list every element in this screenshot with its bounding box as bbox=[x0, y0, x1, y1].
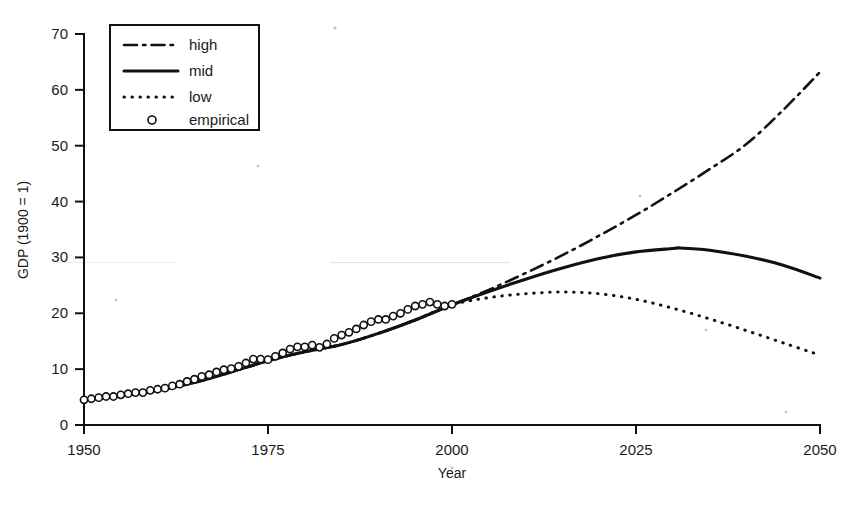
empirical-data-point bbox=[213, 368, 220, 375]
empirical-data-point bbox=[117, 391, 124, 398]
empirical-data-point bbox=[279, 349, 286, 356]
chart-canvas: 010203040506070 GDP (1900 = 1) 195019752… bbox=[0, 0, 847, 507]
legend-label-high: high bbox=[189, 36, 217, 53]
x-tick-label: 1950 bbox=[67, 441, 100, 458]
empirical-data-point bbox=[257, 355, 264, 362]
empirical-data-point bbox=[426, 299, 433, 306]
empirical-data-point bbox=[125, 390, 132, 397]
empirical-data-point bbox=[316, 344, 323, 351]
empirical-data-point bbox=[110, 393, 117, 400]
legend-swatch-empirical-circle-icon bbox=[148, 116, 156, 124]
empirical-data-point bbox=[382, 316, 389, 323]
empirical-data-point bbox=[323, 340, 330, 347]
empirical-data-point bbox=[294, 343, 301, 350]
y-tick-label: 70 bbox=[51, 25, 68, 42]
y-tick-label: 20 bbox=[51, 304, 68, 321]
empirical-data-point bbox=[397, 310, 404, 317]
empirical-data-point bbox=[360, 321, 367, 328]
legend-label-mid: mid bbox=[189, 62, 213, 79]
empirical-data-point bbox=[301, 343, 308, 350]
empirical-data-point bbox=[448, 301, 455, 308]
empirical-data-point bbox=[331, 335, 338, 342]
empirical-data-point bbox=[88, 395, 95, 402]
empirical-data-point bbox=[286, 345, 293, 352]
series-markers-empirical bbox=[80, 299, 455, 404]
empirical-data-point bbox=[169, 382, 176, 389]
y-axis-tick-labels: 010203040506070 bbox=[51, 25, 68, 433]
empirical-data-point bbox=[161, 385, 168, 392]
x-axis: 19501975200020252050 Year bbox=[67, 425, 836, 481]
x-tick-label: 2000 bbox=[435, 441, 468, 458]
empirical-data-point bbox=[191, 376, 198, 383]
empirical-data-point bbox=[206, 371, 213, 378]
x-axis-title: Year bbox=[438, 465, 467, 481]
empirical-data-point bbox=[367, 318, 374, 325]
x-tick-label: 2025 bbox=[619, 441, 652, 458]
empirical-data-point bbox=[176, 381, 183, 388]
empirical-data-point bbox=[441, 302, 448, 309]
empirical-data-point bbox=[242, 359, 249, 366]
x-axis-tick-labels: 19501975200020252050 bbox=[67, 441, 836, 458]
y-tick-label: 60 bbox=[51, 81, 68, 98]
empirical-data-point bbox=[412, 302, 419, 309]
y-tick-label: 50 bbox=[51, 137, 68, 154]
empirical-data-point bbox=[139, 389, 146, 396]
empirical-data-point bbox=[198, 373, 205, 380]
y-axis: 010203040506070 GDP (1900 = 1) bbox=[15, 25, 84, 433]
empirical-data-point bbox=[102, 393, 109, 400]
empirical-data-point bbox=[132, 389, 139, 396]
x-tick-label: 2050 bbox=[803, 441, 836, 458]
empirical-data-point bbox=[375, 316, 382, 323]
empirical-data-point bbox=[220, 366, 227, 373]
x-tick-label: 1975 bbox=[251, 441, 284, 458]
empirical-data-point bbox=[95, 394, 102, 401]
legend-label-empirical: empirical bbox=[189, 111, 249, 128]
empirical-data-point bbox=[272, 353, 279, 360]
empirical-data-point bbox=[390, 312, 397, 319]
empirical-data-point bbox=[434, 301, 441, 308]
legend-label-low: low bbox=[189, 88, 212, 105]
empirical-data-point bbox=[419, 301, 426, 308]
empirical-data-point bbox=[235, 363, 242, 370]
empirical-data-point bbox=[80, 396, 87, 403]
chart-container: 010203040506070 GDP (1900 = 1) 195019752… bbox=[0, 0, 847, 507]
y-tick-label: 0 bbox=[60, 416, 68, 433]
empirical-data-point bbox=[353, 325, 360, 332]
empirical-data-point bbox=[183, 378, 190, 385]
y-tick-label: 30 bbox=[51, 248, 68, 265]
empirical-data-point bbox=[154, 386, 161, 393]
empirical-data-point bbox=[228, 365, 235, 372]
x-axis-ticks bbox=[84, 425, 820, 434]
empirical-data-point bbox=[250, 355, 257, 362]
legend: high mid low empirical bbox=[110, 25, 259, 130]
y-tick-label: 40 bbox=[51, 193, 68, 210]
y-axis-ticks bbox=[75, 34, 84, 425]
y-axis-title: GDP (1900 = 1) bbox=[15, 181, 31, 279]
empirical-data-point bbox=[264, 356, 271, 363]
empirical-data-point bbox=[338, 331, 345, 338]
empirical-data-point bbox=[147, 387, 154, 394]
empirical-data-point bbox=[309, 342, 316, 349]
y-tick-label: 10 bbox=[51, 360, 68, 377]
empirical-data-point bbox=[404, 306, 411, 313]
empirical-data-point bbox=[345, 329, 352, 336]
